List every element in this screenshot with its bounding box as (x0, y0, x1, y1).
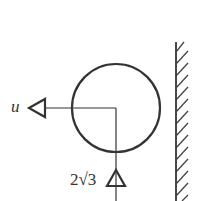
left-arrow-icon (29, 99, 45, 117)
label-2-root-3: 2√3 (70, 171, 96, 188)
label-u: u (11, 98, 20, 115)
diagram-canvas: u 2√3 (0, 0, 207, 201)
diagram-svg (0, 0, 207, 201)
wall-hatch (176, 42, 188, 201)
